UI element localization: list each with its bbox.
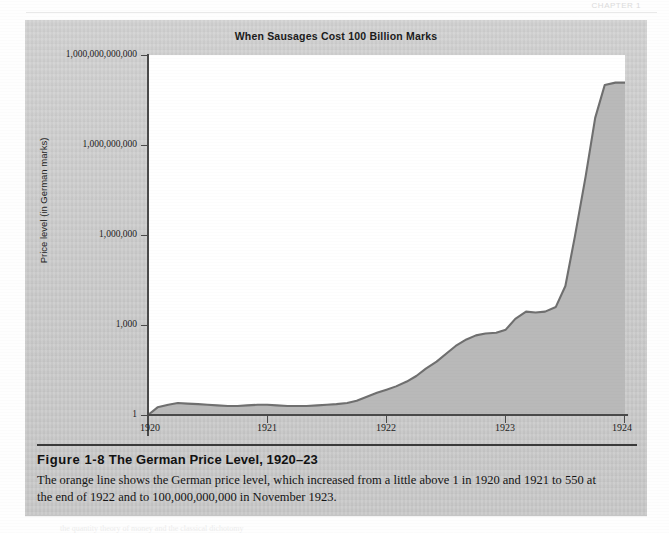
caption-heading: Figure 1-8 The German Price Level, 1920–… — [37, 452, 637, 467]
y-tick-mark — [141, 415, 148, 416]
figure-panel: When Sausages Cost 100 Billion Marks Pri… — [25, 20, 647, 515]
figure-title: The German Price Level, 1920–23 — [109, 452, 318, 467]
plot-area — [148, 55, 625, 415]
x-tick-label: 1923 — [495, 422, 515, 433]
y-tick-label: 1,000 — [0, 319, 137, 329]
y-axis-title: Price level (in German marks) — [38, 101, 49, 301]
caption-body: The orange line shows the German price l… — [37, 472, 597, 505]
y-tick-mark — [141, 145, 148, 146]
series-area-fill — [148, 83, 625, 415]
price-level-area-chart — [148, 55, 625, 415]
y-tick-label: 1 — [0, 409, 137, 419]
x-tick-label: 1924 — [612, 422, 632, 433]
chart: Price level (in German marks) 1,000,000,… — [25, 20, 647, 440]
figure-number: Figure 1-8 — [37, 452, 105, 467]
x-tick-label: 1922 — [376, 422, 396, 433]
y-axis-line — [147, 54, 149, 436]
figure-caption: Figure 1-8 The German Price Level, 1920–… — [37, 444, 637, 505]
x-axis-line — [147, 414, 628, 416]
y-tick-label: 1,000,000,000 — [0, 139, 137, 149]
scanned-page-background: CHAPTER 1 When Sausages Cost 100 Billion… — [0, 0, 669, 533]
panel-bottom-shadow — [25, 515, 647, 517]
y-tick-label: 1,000,000,000,000 — [0, 49, 137, 59]
y-tick-mark — [141, 55, 148, 56]
x-tick-label: 1921 — [257, 422, 277, 433]
caption-rule — [37, 444, 637, 446]
page-show-through-text: the quantity theory of money and the cla… — [60, 524, 244, 533]
x-tick-label: 1920 — [140, 422, 160, 433]
y-tick-mark — [141, 235, 148, 236]
y-tick-label: 1,000,000 — [0, 229, 137, 239]
y-tick-mark — [141, 325, 148, 326]
running-head: CHAPTER 1 — [592, 1, 641, 10]
header-rule — [26, 12, 657, 13]
